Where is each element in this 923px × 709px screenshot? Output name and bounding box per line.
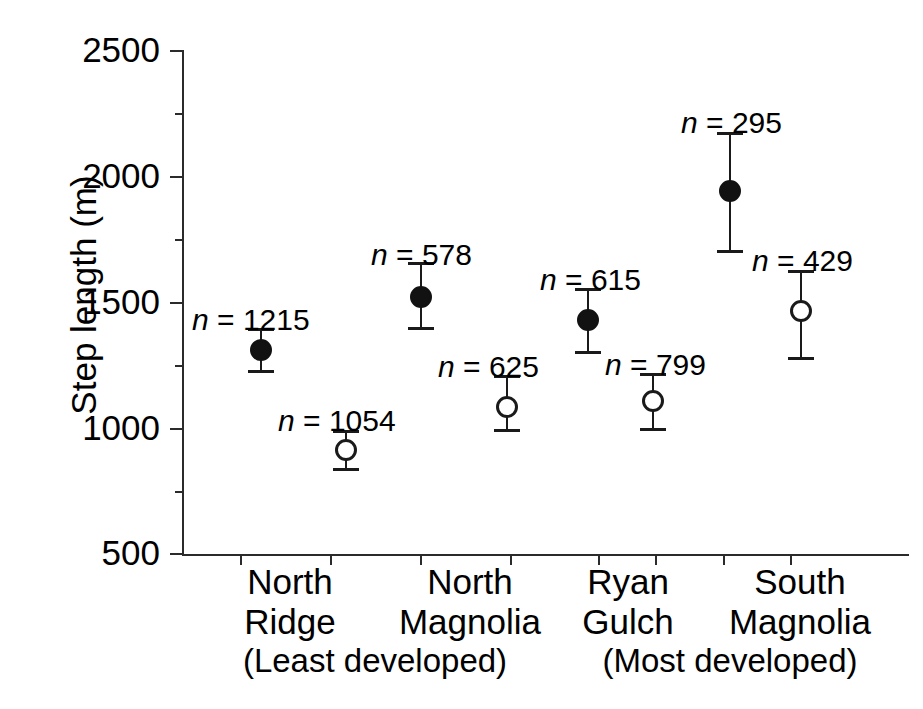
n-label-north-magnolia-open: n = 625 (438, 352, 539, 382)
errorbar-cap-lower (717, 250, 743, 253)
n-label-ryan-gulch-filled: n = 615 (540, 265, 641, 295)
x-label-line2: Ridge (200, 602, 380, 642)
x-label-line1: Ryan (548, 562, 708, 602)
errorbar-cap-lower (248, 370, 274, 373)
n-value: = 615 (557, 263, 641, 296)
errorbar-cap-lower (788, 357, 814, 360)
y-tick-1500 (170, 302, 183, 304)
n-label-north-ridge-filled: n = 1215 (192, 305, 310, 335)
marker-filled-circle (250, 339, 272, 361)
x-label-line2: Gulch (548, 602, 708, 642)
n-italic: n (752, 244, 769, 277)
x-label-line2: Magnolia (370, 602, 570, 642)
x-label-north-ridge: North Ridge (200, 562, 380, 642)
y-tick-1000 (170, 428, 183, 430)
y-tick-2000 (170, 176, 183, 178)
marker-open-circle (496, 396, 518, 418)
n-italic: n (278, 404, 295, 437)
marker-filled-circle (410, 286, 432, 308)
y-tick-500 (170, 553, 183, 555)
n-value: = 429 (769, 244, 853, 277)
y-minor-tick-1750 (175, 239, 183, 241)
marker-filled-circle (577, 309, 599, 331)
n-value: = 1215 (209, 303, 310, 336)
errorbar-cap-lower (640, 428, 666, 431)
n-value: = 1054 (295, 404, 396, 437)
n-label-ryan-gulch-open: n = 799 (605, 350, 706, 380)
x-label-line2: Magnolia (700, 602, 900, 642)
n-italic: n (681, 106, 698, 139)
y-tick-label-1500: 1500 (20, 284, 160, 319)
x-label-line1: South (700, 562, 900, 602)
marker-open-circle (335, 439, 357, 461)
n-italic: n (371, 238, 388, 271)
y-tick-label-500: 500 (20, 535, 160, 570)
y-minor-tick-2250 (175, 113, 183, 115)
x-label-line1: North (200, 562, 380, 602)
x-label-line1: North (370, 562, 570, 602)
n-value: = 799 (622, 348, 706, 381)
y-minor-tick-1250 (175, 365, 183, 367)
step-length-figure: Step length (m) 2500 2000 1500 1000 500 … (0, 0, 923, 709)
errorbar-cap-lower (408, 327, 434, 330)
n-value: = 625 (455, 350, 539, 383)
errorbar-cap-lower (575, 351, 601, 354)
n-label-south-magnolia-filled: n = 295 (681, 108, 782, 138)
errorbar-cap-lower (494, 429, 520, 432)
n-value: = 295 (698, 106, 782, 139)
n-italic: n (605, 348, 622, 381)
n-label-north-magnolia-filled: n = 578 (371, 240, 472, 270)
n-label-south-magnolia-open: n = 429 (752, 246, 853, 276)
marker-filled-circle (719, 180, 741, 202)
x-label-north-magnolia: North Magnolia (370, 562, 570, 642)
x-label-least-developed: (Least developed) (210, 642, 540, 680)
errorbar-cap-lower (333, 468, 359, 471)
n-italic: n (192, 303, 209, 336)
y-tick-label-2500: 2500 (20, 32, 160, 67)
n-italic: n (540, 263, 557, 296)
n-value: = 578 (388, 238, 472, 271)
y-tick-2500 (170, 50, 183, 52)
x-label-ryan-gulch: Ryan Gulch (548, 562, 708, 642)
marker-open-circle (790, 300, 812, 322)
n-label-north-ridge-open: n = 1054 (278, 406, 396, 436)
x-label-south-magnolia: South Magnolia (700, 562, 900, 642)
y-tick-label-2000: 2000 (20, 158, 160, 193)
marker-open-circle (642, 390, 664, 412)
y-tick-label-1000: 1000 (20, 410, 160, 445)
x-label-most-developed: (Most developed) (565, 642, 895, 680)
n-italic: n (438, 350, 455, 383)
y-minor-tick-750 (175, 491, 183, 493)
